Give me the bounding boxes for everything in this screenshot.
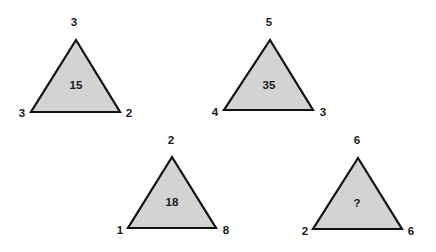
top-number: 5 xyxy=(266,16,273,28)
top-number: 6 xyxy=(354,134,360,146)
right-number: 3 xyxy=(320,106,326,118)
top-number: 2 xyxy=(168,134,174,146)
triangle-4: 6 2 6 ? xyxy=(302,134,414,237)
left-number: 4 xyxy=(212,106,219,118)
triangle-shape xyxy=(313,158,402,229)
left-number: 2 xyxy=(302,225,308,237)
triangle-3: 2 1 8 18 xyxy=(117,134,230,236)
right-number: 2 xyxy=(126,107,132,119)
triangle-puzzle-canvas: 3 3 2 15 5 4 3 35 2 1 8 18 6 2 6 ? xyxy=(0,0,436,252)
center-number: 35 xyxy=(263,79,276,91)
unknown-center-number: ? xyxy=(353,197,360,209)
triangle-1: 3 3 2 15 xyxy=(19,16,132,119)
left-number: 3 xyxy=(19,107,25,119)
triangle-shape xyxy=(31,40,120,112)
center-number: 18 xyxy=(166,196,179,208)
right-number: 6 xyxy=(408,225,414,237)
top-number: 3 xyxy=(71,16,77,28)
right-number: 8 xyxy=(223,224,230,236)
center-number: 15 xyxy=(70,79,83,91)
triangle-shape xyxy=(128,157,216,228)
triangle-2: 5 4 3 35 xyxy=(212,16,326,118)
triangle-shape xyxy=(224,40,313,110)
left-number: 1 xyxy=(117,224,124,236)
